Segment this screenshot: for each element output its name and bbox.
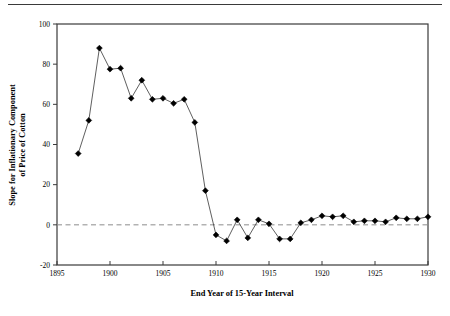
y-tick-label: 40 [43, 140, 51, 149]
y-tick-label: 0 [46, 221, 50, 230]
y-axis-title-line-1: Slope for Inflationary Component [8, 84, 17, 206]
x-tick-label: 1895 [50, 269, 65, 278]
y-tick-label: 60 [43, 100, 51, 109]
y-axis-title-line-2: of Price of Cotton [18, 113, 27, 177]
x-tick-label: 1920 [315, 269, 330, 278]
y-axis-ticks: -20020406080100 [39, 20, 57, 270]
x-tick-label: 1910 [209, 269, 224, 278]
y-tick-label: 80 [43, 60, 51, 69]
x-axis-title: End Year of 15-Year Interval [190, 289, 294, 298]
y-tick-label: 20 [43, 180, 51, 189]
x-tick-label: 1905 [156, 269, 171, 278]
x-tick-label: 1915 [262, 269, 277, 278]
figure-page: -20020406080100 189519001905191019151920… [0, 0, 450, 316]
line-chart-svg: -20020406080100 189519001905191019151920… [0, 0, 450, 316]
x-tick-label: 1925 [368, 269, 383, 278]
y-tick-label: 100 [39, 20, 51, 29]
x-tick-label: 1930 [421, 269, 436, 278]
x-tick-label: 1900 [103, 269, 118, 278]
chart-figure: -20020406080100 189519001905191019151920… [0, 0, 450, 316]
